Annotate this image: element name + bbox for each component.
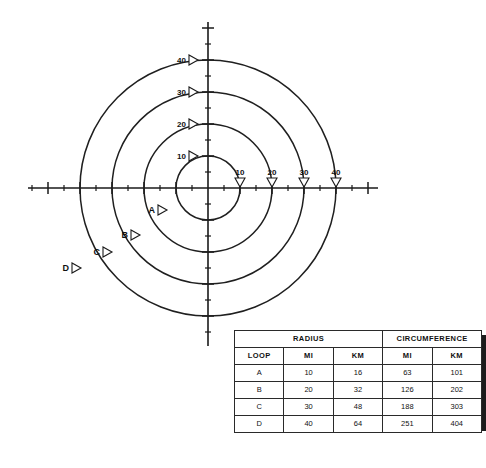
- x-marker-triangle-10-icon: [235, 178, 245, 187]
- cell-loop: C: [235, 399, 284, 416]
- x-marker-triangle-20-icon: [267, 178, 277, 187]
- cell-radius-mi: 20: [284, 382, 333, 399]
- x-marker-triangle-30-icon: [299, 178, 309, 187]
- column-header-loop: LOOP: [235, 348, 284, 365]
- y-axis-tick-label-40: 40: [177, 56, 186, 65]
- cell-radius-km: 32: [333, 382, 382, 399]
- y-axis-tick-label-30: 30: [177, 88, 186, 97]
- x-axis-tick-label-30: 30: [300, 168, 309, 177]
- cell-loop: B: [235, 382, 284, 399]
- cell-radius-km: 16: [333, 365, 382, 382]
- column-header-circ-km: KM: [432, 348, 481, 365]
- radius-circumference-table-wrap: RADIUS CIRCUMFERENCE LOOP MI KM MI KM A …: [234, 330, 482, 433]
- loop-label-c: C: [94, 247, 101, 257]
- y-marker-triangle-20-icon: [189, 119, 198, 129]
- cell-radius-km: 48: [333, 399, 382, 416]
- column-header-radius-km: KM: [333, 348, 382, 365]
- x-label-20-group: 20: [267, 168, 277, 187]
- table-row: B 20 32 126 202: [235, 382, 482, 399]
- x-axis-tick-label-10: 10: [236, 168, 245, 177]
- x-label-30-group: 30: [299, 168, 309, 187]
- loop-label-b: B: [122, 230, 129, 240]
- table-row: A 10 16 63 101: [235, 365, 482, 382]
- loop-marker-triangle-c-icon: [103, 247, 112, 257]
- cell-circ-km: 404: [432, 416, 481, 433]
- cell-circ-mi: 126: [383, 382, 432, 399]
- radius-circumference-table: RADIUS CIRCUMFERENCE LOOP MI KM MI KM A …: [234, 330, 482, 433]
- loop-callout-d: D: [63, 263, 82, 273]
- loop-callout-c: C: [94, 247, 113, 257]
- cell-loop: A: [235, 365, 284, 382]
- figure-root: 10 20 30 40 10 20 30 40: [0, 0, 486, 468]
- cell-circ-mi: 188: [383, 399, 432, 416]
- cell-circ-km: 202: [432, 382, 481, 399]
- loop-callout-b: B: [122, 230, 141, 240]
- table-row: D 40 64 251 404: [235, 416, 482, 433]
- cell-circ-mi: 251: [383, 416, 432, 433]
- cell-radius-mi: 10: [284, 365, 333, 382]
- y-marker-triangle-40-icon: [189, 55, 198, 65]
- y-label-30-group: 30: [177, 87, 198, 97]
- x-axis-tick-label-20: 20: [268, 168, 277, 177]
- cell-radius-km: 64: [333, 416, 382, 433]
- x-label-40-group: 40: [331, 168, 341, 187]
- cell-circ-mi: 63: [383, 365, 432, 382]
- x-label-10-group: 10: [235, 168, 245, 187]
- loop-label-d: D: [63, 263, 70, 273]
- y-axis-tick-label-20: 20: [177, 120, 186, 129]
- loop-marker-triangle-a-icon: [158, 205, 167, 215]
- y-marker-triangle-30-icon: [189, 87, 198, 97]
- column-header-circ-mi: MI: [383, 348, 432, 365]
- group-header-circumference: CIRCUMFERENCE: [383, 331, 482, 348]
- loop-marker-triangle-b-icon: [131, 230, 140, 240]
- x-axis-tick-label-40: 40: [332, 168, 341, 177]
- loop-marker-triangle-d-icon: [72, 263, 81, 273]
- cell-circ-km: 303: [432, 399, 481, 416]
- column-header-radius-mi: MI: [284, 348, 333, 365]
- x-marker-triangle-40-icon: [331, 178, 341, 187]
- cell-circ-km: 101: [432, 365, 481, 382]
- y-label-40-group: 40: [177, 55, 198, 65]
- table-column-header-row: LOOP MI KM MI KM: [235, 348, 482, 365]
- table-group-header-row: RADIUS CIRCUMFERENCE: [235, 331, 482, 348]
- loop-label-a: A: [149, 205, 156, 215]
- cell-loop: D: [235, 416, 284, 433]
- cell-radius-mi: 30: [284, 399, 333, 416]
- cell-radius-mi: 40: [284, 416, 333, 433]
- loop-callout-a: A: [149, 205, 168, 215]
- group-header-radius: RADIUS: [235, 331, 383, 348]
- y-axis-tick-label-10: 10: [177, 152, 186, 161]
- table-row: C 30 48 188 303: [235, 399, 482, 416]
